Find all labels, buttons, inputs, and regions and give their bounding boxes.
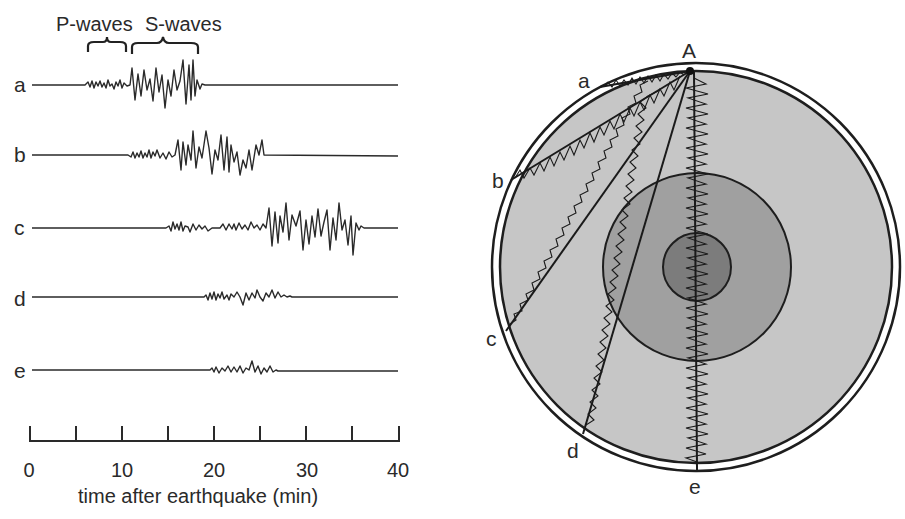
- trace-c: [32, 203, 398, 255]
- p-waves-brace: [88, 37, 126, 52]
- station-label-c: c: [486, 328, 497, 349]
- station-label-b: b: [492, 170, 504, 191]
- figure-graphics: [0, 0, 905, 519]
- station-label-a: a: [578, 70, 590, 91]
- station-label-d: d: [567, 440, 579, 461]
- time-axis: [29, 426, 400, 442]
- source-label-A: A: [682, 40, 696, 61]
- station-label-e: e: [689, 476, 701, 497]
- trace-d: [32, 290, 398, 305]
- earthquake-source-point: [686, 67, 694, 75]
- trace-a: [32, 60, 398, 108]
- s-waves-brace: [132, 37, 198, 54]
- trace-b: [32, 131, 398, 175]
- trace-e: [32, 361, 398, 374]
